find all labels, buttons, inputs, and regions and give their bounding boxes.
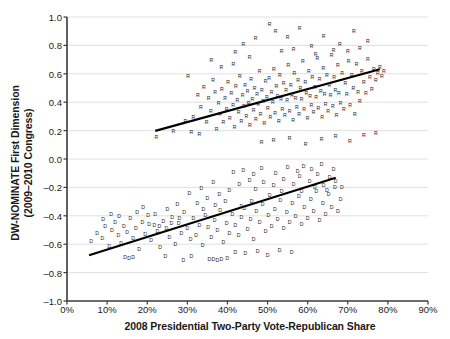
data-point-D: D — [270, 223, 274, 229]
data-point-D: D — [325, 187, 329, 193]
data-point-D: D — [122, 223, 126, 229]
data-point-D: D — [95, 230, 99, 236]
data-point-D: D — [210, 234, 214, 240]
data-point-D: D — [290, 249, 294, 255]
data-point-D: D — [242, 167, 246, 173]
y-tick-label: –0.8 — [28, 267, 62, 278]
data-point-R: R — [307, 68, 311, 74]
data-point-R: R — [288, 135, 292, 141]
data-point-R: R — [312, 109, 316, 115]
data-point-D: D — [288, 219, 292, 225]
data-point-R: R — [331, 103, 335, 109]
x-tick-label: 50% — [248, 304, 288, 315]
data-point-D: D — [258, 219, 262, 225]
data-point-D: D — [182, 209, 186, 215]
data-point-R: R — [329, 92, 333, 98]
data-point-D: D — [218, 207, 222, 213]
data-point-R: R — [366, 38, 370, 44]
data-point-R: R — [241, 92, 245, 98]
data-point-R: R — [337, 90, 341, 96]
data-point-R: R — [205, 119, 209, 125]
data-point-R: R — [322, 33, 326, 39]
data-point-R: R — [223, 95, 227, 101]
data-point-R: R — [293, 70, 297, 76]
y-tick-label: 0.8 — [28, 40, 62, 51]
data-point-R: R — [338, 41, 342, 47]
data-point-R: R — [352, 85, 356, 91]
data-point-R: R — [362, 79, 366, 85]
data-point-D: D — [175, 201, 179, 207]
data-point-R: R — [191, 114, 195, 120]
data-point-R: R — [347, 58, 351, 64]
data-point-R: R — [321, 65, 325, 71]
data-point-D: D — [274, 170, 278, 176]
data-point-R: R — [296, 77, 300, 83]
data-point-R: R — [352, 28, 356, 34]
data-point-R: R — [304, 141, 308, 147]
data-point-D: D — [161, 218, 165, 224]
data-point-R: R — [196, 92, 200, 98]
data-point-R: R — [297, 111, 301, 117]
data-point-D: D — [262, 179, 266, 185]
data-point-D: D — [224, 198, 228, 204]
data-point-R: R — [202, 84, 206, 90]
data-point-R: R — [253, 85, 257, 91]
data-point-D: D — [340, 184, 344, 190]
data-point-R: R — [232, 61, 236, 67]
data-point-R: R — [238, 73, 242, 79]
data-point-R: R — [233, 124, 237, 130]
data-point-D: D — [131, 254, 135, 260]
x-tick-label: 60% — [288, 304, 328, 315]
y-tick-label: 0.2 — [28, 125, 62, 136]
data-point-R: R — [267, 75, 271, 81]
data-point-R: R — [171, 128, 175, 134]
data-point-D: D — [173, 241, 177, 247]
data-point-D: D — [339, 196, 343, 202]
data-point-R: R — [254, 35, 258, 41]
data-point-D: D — [252, 236, 256, 242]
data-point-D: D — [181, 257, 185, 263]
data-point-R: R — [334, 133, 338, 139]
data-point-D: D — [212, 179, 216, 185]
data-point-R: R — [282, 80, 286, 86]
data-point-D: D — [143, 231, 147, 237]
data-point-D: D — [169, 220, 173, 226]
data-point-R: R — [335, 112, 339, 118]
data-point-D: D — [158, 244, 162, 250]
data-point-R: R — [255, 91, 259, 97]
data-point-D: D — [246, 226, 250, 232]
data-point-R: R — [280, 48, 284, 54]
data-point-R: R — [292, 46, 296, 52]
data-point-R: R — [272, 66, 276, 72]
data-point-D: D — [100, 235, 104, 241]
data-point-R: R — [340, 70, 344, 76]
data-point-R: R — [244, 113, 248, 119]
data-point-R: R — [300, 96, 304, 102]
data-point-D: D — [185, 225, 189, 231]
data-point-R: R — [226, 79, 230, 85]
data-point-R: R — [275, 83, 279, 89]
data-point-D: D — [291, 200, 295, 206]
data-point-D: D — [324, 211, 328, 217]
data-point-D: D — [213, 217, 217, 223]
data-point-R: R — [283, 112, 287, 118]
data-point-D: D — [273, 206, 277, 212]
data-point-D: D — [167, 234, 171, 240]
data-point-R: R — [291, 117, 295, 123]
data-point-R: R — [342, 106, 346, 112]
data-point-R: R — [348, 138, 352, 144]
x-tick-label: 20% — [127, 304, 167, 315]
data-point-R: R — [228, 115, 232, 121]
data-point-D: D — [141, 204, 145, 210]
data-point-D: D — [222, 239, 226, 245]
data-point-D: D — [206, 224, 210, 230]
data-point-R: R — [364, 90, 368, 96]
data-point-D: D — [194, 232, 198, 238]
data-point-D: D — [300, 221, 304, 227]
data-point-R: R — [199, 104, 203, 110]
data-point-R: R — [358, 98, 362, 104]
data-point-D: D — [282, 225, 286, 231]
data-point-D: D — [218, 191, 222, 197]
data-point-D: D — [312, 208, 316, 214]
data-point-R: R — [303, 79, 307, 85]
